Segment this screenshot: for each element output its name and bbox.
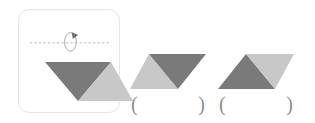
answer-slot-option-2[interactable]: ( )	[219, 90, 293, 118]
close-paren: )	[286, 94, 293, 114]
open-paren: (	[219, 94, 226, 114]
candidate-shape-1[interactable]	[130, 54, 206, 89]
rotation-arrowhead-icon	[72, 32, 78, 39]
open-paren: (	[131, 94, 138, 114]
original-figure-panel	[18, 9, 120, 113]
candidate-shape-2[interactable]	[218, 54, 294, 89]
exercise-canvas: ( ) ( )	[0, 0, 315, 123]
close-paren: )	[198, 94, 205, 114]
answer-blank-2[interactable]	[226, 104, 287, 105]
answer-blank-1[interactable]	[138, 104, 199, 105]
answer-slot-option-1[interactable]: ( )	[131, 90, 205, 118]
original-shape	[45, 62, 133, 101]
rotation-arrow-icon	[65, 33, 77, 52]
